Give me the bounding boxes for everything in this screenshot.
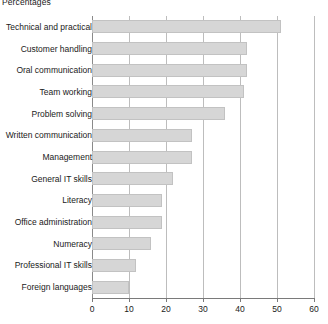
bar	[92, 194, 162, 207]
category-label: Professional IT skills	[15, 261, 92, 270]
bar	[92, 20, 281, 33]
bar-row	[92, 172, 314, 185]
category-label: General IT skills	[31, 175, 92, 184]
bars-layer	[92, 16, 314, 298]
bar	[92, 42, 247, 55]
category-label: Literacy	[62, 196, 92, 205]
bar-chart: Percentages 0102030405060 Technical and …	[0, 0, 328, 324]
category-label: Customer handling	[21, 45, 92, 54]
bar	[92, 151, 192, 164]
x-tick-label-10: 10	[124, 304, 133, 314]
bar-row	[92, 129, 314, 142]
x-tick-0	[92, 298, 93, 302]
bar-row	[92, 216, 314, 229]
x-tick-50	[277, 298, 278, 302]
bar-row	[92, 107, 314, 120]
bar	[92, 64, 247, 77]
category-label: Management	[42, 153, 92, 162]
bar	[92, 281, 129, 294]
bar-row	[92, 64, 314, 77]
bar-row	[92, 259, 314, 272]
bar-row	[92, 20, 314, 33]
x-tick-label-60: 60	[309, 304, 318, 314]
category-label: Written communication	[6, 131, 92, 140]
bar-row	[92, 42, 314, 55]
bar	[92, 129, 192, 142]
bar-row	[92, 281, 314, 294]
x-tick-20	[166, 298, 167, 302]
bar-row	[92, 85, 314, 98]
bar-row	[92, 237, 314, 250]
bar	[92, 172, 173, 185]
category-label: Technical and practical	[6, 23, 92, 32]
x-tick-label-30: 30	[198, 304, 207, 314]
bar	[92, 85, 244, 98]
x-tick-label-20: 20	[161, 304, 170, 314]
category-label: Foreign languages	[22, 283, 92, 292]
category-label: Office administration	[15, 218, 92, 227]
bar	[92, 259, 136, 272]
x-tick-label-40: 40	[235, 304, 244, 314]
bar	[92, 107, 225, 120]
chart-title: Percentages	[2, 0, 51, 7]
category-label: Team working	[40, 88, 92, 97]
plot-area	[92, 16, 314, 298]
x-tick-30	[203, 298, 204, 302]
bar-row	[92, 194, 314, 207]
category-label: Numeracy	[53, 240, 92, 249]
category-label: Oral communication	[16, 66, 92, 75]
bar	[92, 237, 151, 250]
x-tick-10	[129, 298, 130, 302]
x-tick-label-0: 0	[90, 304, 95, 314]
gridline-60	[314, 16, 315, 298]
bar	[92, 216, 162, 229]
category-label: Problem solving	[32, 110, 92, 119]
bar-row	[92, 151, 314, 164]
x-tick-label-50: 50	[272, 304, 281, 314]
x-tick-40	[240, 298, 241, 302]
x-tick-60	[314, 298, 315, 302]
